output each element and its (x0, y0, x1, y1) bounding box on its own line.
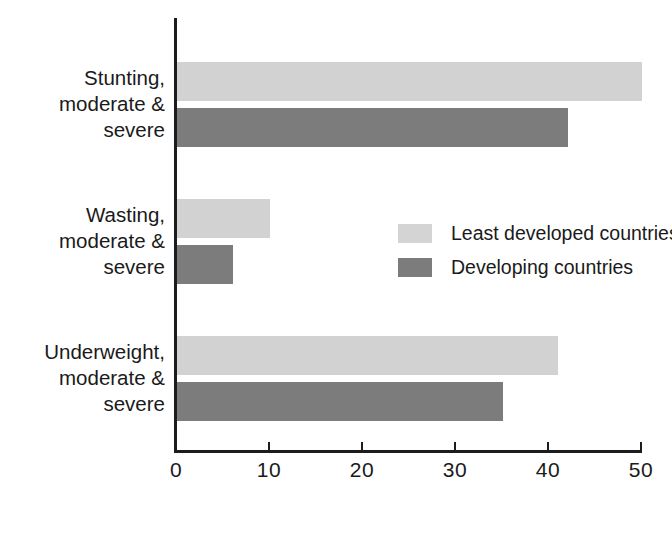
category-label-line: severe (0, 254, 165, 280)
bar-1-1 (177, 245, 233, 284)
x-axis-tick-label: 10 (239, 458, 299, 482)
x-axis-tick-label: 20 (332, 458, 392, 482)
x-axis-line (174, 450, 642, 453)
x-axis-tick-label: 30 (425, 458, 485, 482)
category-label-line: Wasting, (0, 202, 165, 228)
category-label-line: severe (0, 117, 165, 143)
figure-9-1: 01020304050 Stunting,moderate &severeWas… (0, 0, 672, 553)
x-axis-tick-label: 50 (611, 458, 671, 482)
chart-legend: Least developed countriesDeveloping coun… (398, 216, 672, 284)
bar-0-1 (177, 199, 270, 238)
bar-0-0 (177, 62, 642, 101)
legend-item: Developing countries (398, 250, 672, 284)
category-label-line: severe (0, 391, 165, 417)
category-label-2: Underweight,moderate &severe (0, 339, 174, 417)
legend-item: Least developed countries (398, 216, 672, 250)
figure-caption: FIGURE 9.1 (0, 486, 672, 553)
legend-item-label: Least developed countries (451, 222, 672, 245)
bar-0-2 (177, 336, 558, 375)
category-label-line: Stunting, (0, 65, 165, 91)
legend-swatch-least-developed (398, 224, 432, 243)
category-label-line: moderate & (0, 228, 165, 254)
x-axis-tick (268, 442, 270, 451)
legend-item-label: Developing countries (451, 256, 633, 279)
x-axis-tick (547, 442, 549, 451)
bar-1-0 (177, 108, 568, 147)
category-label-1: Wasting,moderate &severe (0, 202, 174, 280)
category-label-line: moderate & (0, 365, 165, 391)
category-label-line: moderate & (0, 91, 165, 117)
x-axis-tick-label: 0 (146, 458, 206, 482)
bar-chart-plot-area: 01020304050 Stunting,moderate &severeWas… (0, 0, 672, 553)
x-axis-tick-label: 40 (518, 458, 578, 482)
category-label-0: Stunting,moderate &severe (0, 65, 174, 143)
legend-swatch-developing (398, 258, 432, 277)
x-axis-tick (640, 442, 642, 451)
x-axis-tick (454, 442, 456, 451)
bar-1-2 (177, 382, 503, 421)
x-axis-tick (175, 442, 177, 451)
x-axis-tick (361, 442, 363, 451)
category-label-line: Underweight, (0, 339, 165, 365)
